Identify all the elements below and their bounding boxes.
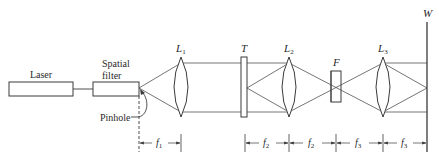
dim-f3a-label: f3 — [355, 137, 362, 150]
laser-box — [9, 82, 73, 96]
dim-f2b-label: f2 — [308, 137, 315, 150]
laser-label: Laser — [30, 69, 53, 80]
spatial-filter-box — [93, 82, 139, 96]
pinhole-label: Pinhole — [100, 112, 131, 123]
dim-f1-label: f1 — [156, 137, 163, 150]
spatial-filter-label-line1: Spatial — [102, 58, 130, 69]
optical-diagram: Laser Spatial filter Pinhole L1 T L2 — [0, 0, 439, 164]
lens-l1-label: L1 — [175, 42, 186, 56]
screen-label: W — [423, 7, 433, 19]
filter-f — [331, 71, 341, 102]
lens-l2-label: L2 — [283, 42, 294, 56]
dim-f3b-label: f3 — [401, 137, 408, 150]
transparency-t — [241, 57, 247, 117]
filter-label: F — [332, 56, 340, 68]
transparency-label: T — [241, 42, 248, 54]
dim-f2a-label: f2 — [263, 137, 270, 150]
spatial-filter-label-line2: filter — [102, 70, 122, 81]
lens-l3-label: L3 — [377, 42, 388, 56]
